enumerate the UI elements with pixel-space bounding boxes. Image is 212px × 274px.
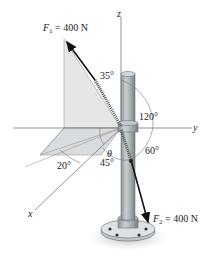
f1-projection-plane [40,39,121,155]
cable-attach-point [129,159,133,163]
angle-120-label: 120° [139,112,158,122]
angle-theta-label: θ [107,149,112,159]
angle-20-label: 20° [57,161,71,171]
pole [118,72,138,221]
f2-label: F2 = 400 N [153,214,198,226]
y-axis-label: y [193,123,197,133]
z-axis-label: z [117,9,121,19]
x-axis-label: x [28,209,32,219]
angle-35-label: 35° [100,71,114,81]
force-diagram [0,0,212,274]
angle-45-label: 45° [100,158,114,168]
angle-60-label: 60° [145,146,159,156]
f1-label: F1 = 400 N [43,23,88,35]
